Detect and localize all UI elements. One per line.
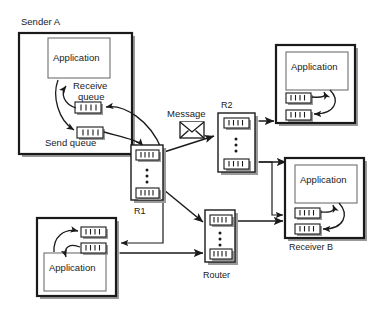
diagram-canvas: Sender A Application Receive queue Send …	[0, 0, 385, 318]
receive-queue-label-line1: Receive	[73, 80, 107, 91]
receiver-b-receive-queue	[295, 224, 322, 236]
host-bottom-left-application-label: Application	[49, 262, 95, 273]
host-top-right-application-label: Application	[291, 61, 337, 72]
link-r2-to-receiver-b	[259, 162, 283, 215]
sender-a-receive-queue	[75, 102, 103, 115]
router-node	[205, 210, 238, 265]
r1-label: R1	[134, 206, 146, 216]
network-diagram: Sender A Application Receive queue Send …	[0, 0, 385, 318]
receiver-b-application-label: Application	[300, 174, 346, 185]
receive-queue-label-line2: queue	[78, 91, 104, 102]
sender-a-send-queue	[77, 127, 105, 140]
r2-label: R2	[221, 100, 233, 110]
receiver-b-send-queue	[295, 208, 322, 220]
r2-router	[218, 113, 258, 175]
host-bottom-left-receive-queue	[81, 243, 108, 255]
link-r1-to-router	[164, 190, 203, 222]
router-label: Router	[203, 270, 230, 280]
receiver-b-label: Receiver B	[289, 242, 333, 252]
host-bottom-left-send-queue	[81, 227, 108, 239]
message-label: Message	[167, 108, 206, 119]
envelope-icon	[180, 122, 204, 138]
sender-a-application-label: Application	[53, 52, 99, 63]
host-top-right-send-queue	[286, 93, 313, 105]
r1-router	[131, 145, 166, 203]
host-top-right-receive-queue	[286, 110, 313, 122]
sender-a-label: Sender A	[21, 16, 61, 27]
